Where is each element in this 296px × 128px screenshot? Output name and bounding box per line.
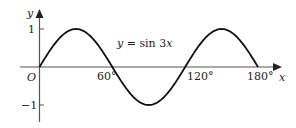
origin-label: O: [27, 71, 36, 84]
curve-equation-label: y = sin 3x: [116, 37, 173, 50]
y-axis-arrow-icon: [36, 9, 44, 18]
x-tick-label-60: 60°: [97, 70, 117, 83]
y-tick-label-m1: −1: [21, 99, 37, 112]
curve-eq-rest: = sin 3: [123, 37, 166, 50]
x-axis-arrow-icon: [273, 63, 282, 71]
x-tick-label-180: 180°: [247, 70, 274, 83]
sine-chart: y 1 −1 O 60° 120° 180° x y = sin 3x: [0, 0, 296, 128]
y-axis-label: y: [26, 7, 34, 20]
y-tick-label-1: 1: [28, 23, 35, 36]
x-tick-label-120: 120°: [187, 70, 214, 83]
curve-eq-x: x: [166, 37, 173, 50]
x-axis-label: x: [279, 71, 286, 84]
